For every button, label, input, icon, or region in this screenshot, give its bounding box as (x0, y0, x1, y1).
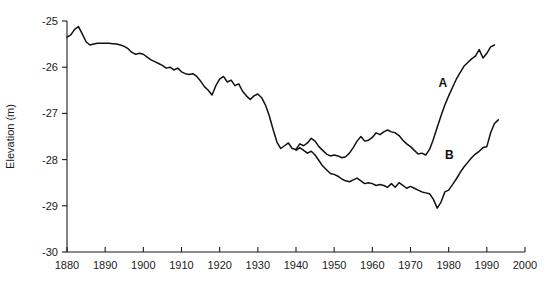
series-annotation-b: B (445, 148, 454, 162)
y-tick-label: -30 (42, 246, 58, 258)
y-tick-label: -26 (42, 61, 58, 73)
x-axis-group: 1880189019001910192019301940195019601970… (55, 247, 537, 271)
elevation-line-chart: -25-26-27-28-29-30 188018901900191019201… (0, 0, 545, 288)
x-tick-label: 1920 (207, 259, 231, 271)
series-annotation-a: A (439, 76, 448, 90)
x-tick-label: 1980 (436, 259, 460, 271)
series-line-a (67, 27, 494, 158)
x-tick-label: 1910 (169, 259, 193, 271)
y-tick-group: -25-26-27-28-29-30 (42, 15, 67, 258)
x-tick-label: 1900 (131, 259, 155, 271)
y-axis-title: Elevation (m) (4, 104, 16, 169)
y-tick-label: -29 (42, 200, 58, 212)
y-tick-label: -27 (42, 107, 58, 119)
y-tick-label: -28 (42, 154, 58, 166)
x-tick-label: 1940 (284, 259, 308, 271)
x-tick-label: 1890 (93, 259, 117, 271)
series-line-b (296, 120, 498, 208)
series-group (67, 27, 498, 209)
y-tick-label: -25 (42, 15, 58, 27)
x-tick-label: 2000 (513, 259, 537, 271)
x-tick-group: 1880189019001910192019301940195019601970… (55, 247, 537, 271)
y-axis-group: -25-26-27-28-29-30 (42, 15, 67, 258)
x-tick-label: 1970 (398, 259, 422, 271)
x-tick-label: 1930 (246, 259, 270, 271)
x-tick-label: 1880 (55, 259, 79, 271)
chart-container: -25-26-27-28-29-30 188018901900191019201… (0, 0, 545, 288)
x-tick-label: 1990 (475, 259, 499, 271)
x-tick-label: 1960 (360, 259, 384, 271)
x-tick-label: 1950 (322, 259, 346, 271)
